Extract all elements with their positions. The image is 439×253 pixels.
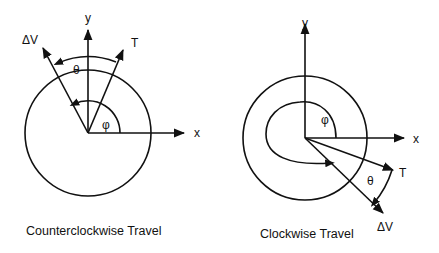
caption: Counterclockwise Travel [26, 224, 161, 238]
y-axis-label: y [302, 16, 308, 30]
counterclockwise-diagram: y x ΔV T θ φ Counterclockwise Travel [22, 11, 200, 238]
theta-label: θ [367, 174, 374, 188]
thrust-vector [305, 138, 393, 170]
caption: Clockwise Travel [260, 227, 354, 241]
diagram-canvas: y x ΔV T θ φ Counterclockwise Travel y x… [0, 0, 439, 253]
theta-label: θ [73, 63, 80, 77]
theta-arc [58, 57, 116, 63]
delta-v-label: ΔV [377, 220, 393, 234]
thrust-label: T [131, 36, 139, 50]
thrust-label: T [399, 166, 407, 180]
phi-label: φ [102, 118, 110, 132]
phi-arc [74, 101, 120, 133]
phi-arc [266, 102, 336, 164]
x-axis-label: x [194, 126, 200, 140]
clockwise-diagram: y x T ΔV φ θ Clockwise Travel [243, 16, 419, 241]
phi-label: φ [321, 113, 329, 127]
theta-arc [374, 170, 392, 203]
x-axis-label: x [413, 132, 419, 146]
delta-v-label: ΔV [22, 33, 38, 47]
y-axis-label: y [85, 11, 91, 25]
